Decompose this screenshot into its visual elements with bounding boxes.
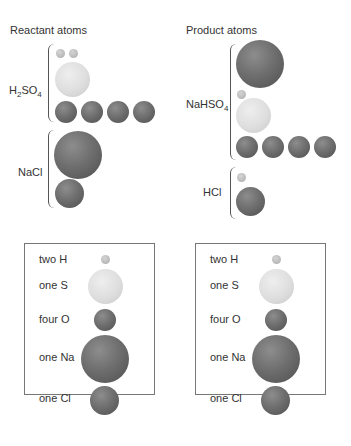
oxygen-atom [107,101,129,123]
sulfur-atom [88,269,123,304]
sodium-atom [236,40,284,88]
sodium-atom [252,335,300,383]
h2so4-brace [48,44,55,122]
hydrogen-atom [56,49,65,58]
sulfur-atom [259,269,294,304]
legend-label: one S [210,279,239,291]
nacl-label: NaCl [18,166,42,178]
nahso4-label: NaHSO4 [186,98,228,113]
legend-label: four O [39,313,70,325]
h2so4-label: H2SO4 [9,84,42,99]
oxygen-atom [55,101,77,123]
oxygen-atom [262,136,284,158]
oxygen-atom [314,136,336,158]
legend-label: one Na [39,351,74,363]
oxygen-atom [265,309,287,331]
sulfur-atom [236,98,271,133]
chlorine-atom [55,179,84,208]
legend-label: four O [210,313,241,325]
sodium-atom [81,335,129,383]
sulfur-atom [55,62,90,97]
oxygen-atom [94,309,116,331]
chlorine-atom [90,386,119,415]
hydrogen-atom [101,255,110,264]
chlorine-atom [236,187,265,216]
legend-label: two H [39,253,67,265]
hydrogen-atom [237,90,246,99]
chlorine-atom [261,386,290,415]
legend-label: one Cl [210,392,242,404]
reactant-title: Reactant atoms [10,24,87,36]
oxygen-atom [236,136,258,158]
oxygen-atom [288,136,310,158]
hcl-label: HCl [203,186,221,198]
legend-label: two H [210,253,238,265]
oxygen-atom [133,101,155,123]
legend-label: one Cl [39,392,71,404]
legend-label: one Na [210,351,245,363]
product-title: Product atoms [186,24,257,36]
hcl-brace [230,167,237,219]
oxygen-atom [81,101,103,123]
hydrogen-atom [272,255,281,264]
hydrogen-atom [237,173,246,182]
nacl-brace [48,130,55,208]
sodium-atom [54,131,102,179]
hydrogen-atom [69,49,78,58]
legend-label: one S [39,279,68,291]
